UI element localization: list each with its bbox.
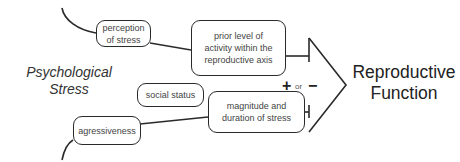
psychological-stress-label: Psychological Stress xyxy=(4,64,134,98)
node-social-status: social status xyxy=(137,83,204,107)
node-label: magnitude and duration of stress xyxy=(213,100,300,124)
node-magnitude-duration: magnitude and duration of stress xyxy=(208,91,305,133)
node-label: perception of stress xyxy=(101,22,146,46)
stress-reproduction-diagram: Psychological Stress perception of stres… xyxy=(0,0,460,162)
reproductive-function-label: Reproductive Function xyxy=(348,62,460,104)
node-label: prior level of activity within the repro… xyxy=(196,30,281,66)
incoming-curve-bottom xyxy=(62,140,73,160)
node-label: social status xyxy=(146,89,196,101)
source-label-line1: Psychological xyxy=(4,64,134,81)
node-perception-of-stress: perception of stress xyxy=(96,20,151,47)
node-label: agressiveness xyxy=(78,125,136,137)
or-label: or xyxy=(295,82,302,92)
connector-aggressiveness-magnitude xyxy=(140,117,208,124)
connector-perception-prior xyxy=(150,43,191,50)
incoming-curve-top xyxy=(62,8,96,33)
minus-sign-icon: − xyxy=(308,78,317,94)
node-prior-level-activity: prior level of activity within the repro… xyxy=(191,20,286,76)
node-aggressiveness: agressiveness xyxy=(73,116,141,145)
plus-sign-icon: + xyxy=(282,78,291,94)
target-label-line1: Reproductive xyxy=(348,62,460,83)
source-label-line2: Stress xyxy=(4,81,134,98)
target-label-line2: Function xyxy=(348,83,460,104)
